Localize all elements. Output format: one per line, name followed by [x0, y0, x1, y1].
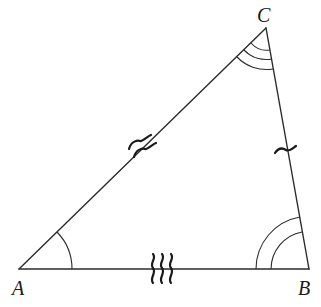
- angle-a-arcs: [57, 232, 72, 269]
- angle-b-arcs: [256, 217, 302, 269]
- angle-c-arcs: [237, 43, 273, 70]
- angle-b-arc-1: [271, 232, 302, 269]
- angle-c-arc-1: [251, 43, 270, 50]
- side-bc: [266, 28, 309, 269]
- angle-c-arc-2: [244, 50, 272, 60]
- side-ac-tick-1: [129, 135, 151, 149]
- angle-b-arc-2: [256, 217, 300, 269]
- angle-c-arc-3: [237, 57, 273, 70]
- side-bc-ticks: [275, 146, 296, 153]
- side-bc-tick-1: [275, 146, 296, 153]
- side-ac-ticks: [129, 135, 156, 157]
- side-ab-tick-2: [161, 254, 163, 283]
- side-ab-tick-3: [170, 254, 172, 283]
- vertex-label-b: B: [298, 277, 310, 299]
- vertex-label-a: A: [10, 277, 25, 299]
- angle-a-arc-1: [57, 232, 72, 269]
- triangle-svg: A B C: [0, 0, 321, 307]
- side-ab-tick-1: [152, 254, 154, 283]
- vertex-label-c: C: [257, 4, 271, 26]
- triangle-diagram: A B C: [0, 0, 321, 307]
